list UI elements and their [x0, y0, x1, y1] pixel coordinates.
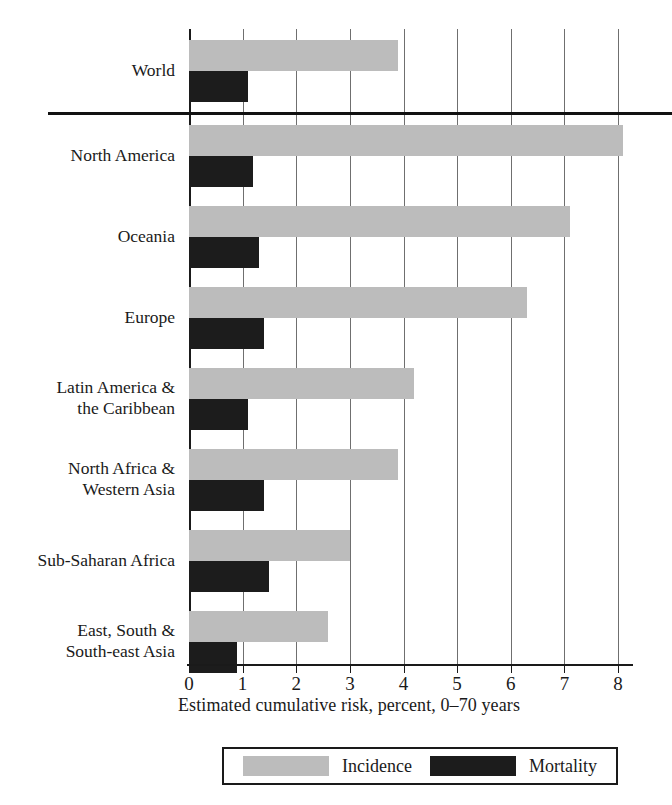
- bar-mortality-north-africa: [189, 480, 264, 511]
- bar-incidence-north-africa: [189, 449, 398, 480]
- bar-incidence-north-america: [189, 125, 623, 156]
- x-axis-title: Estimated cumulative risk, percent, 0–70…: [0, 695, 672, 716]
- x-tick-label-7: 7: [544, 672, 584, 696]
- x-tick-label-1: 1: [223, 672, 263, 696]
- bar-mortality-sub-saharan-africa: [189, 561, 269, 592]
- category-label-europe: Europe: [0, 307, 175, 328]
- bar-incidence-east-south-asia: [189, 611, 328, 642]
- bar-incidence-europe: [189, 287, 527, 318]
- x-axis-line: [187, 664, 633, 666]
- incidence-swatch-icon: [243, 756, 329, 776]
- x-axis-title-text: Estimated cumulative risk, percent, 0–70…: [178, 695, 520, 716]
- x-tick-label-4: 4: [384, 672, 424, 696]
- category-label-latin-america: Latin America & the Caribbean: [0, 377, 175, 419]
- bar-mortality-oceania: [189, 237, 259, 268]
- category-label-east-south-asia: East, South & South-east Asia: [0, 620, 175, 662]
- bar-incidence-oceania: [189, 206, 570, 237]
- x-tick-label-2: 2: [276, 672, 316, 696]
- legend-item-mortality: Mortality: [430, 756, 597, 776]
- bar-mortality-europe: [189, 318, 264, 349]
- x-tick-label-6: 6: [491, 672, 531, 696]
- category-label-sub-saharan-africa: Sub-Saharan Africa: [0, 550, 175, 571]
- x-tick-label-5: 5: [437, 672, 477, 696]
- bar-mortality-latin-america: [189, 399, 248, 430]
- mortality-swatch-icon: [430, 756, 516, 776]
- world-separator-rule: [48, 112, 672, 115]
- legend-label-mortality: Mortality: [529, 756, 597, 776]
- bar-incidence-sub-saharan-africa: [189, 530, 350, 561]
- category-label-oceania: Oceania: [0, 226, 175, 247]
- bar-incidence-world: [189, 40, 398, 71]
- x-tick-label-0: 0: [169, 672, 209, 696]
- bar-mortality-world: [189, 71, 248, 102]
- bar-mortality-east-south-asia: [189, 642, 237, 673]
- category-label-north-america: North America: [0, 145, 175, 166]
- bar-mortality-north-america: [189, 156, 253, 187]
- legend-item-incidence: Incidence: [243, 756, 412, 776]
- x-tick-label-8: 8: [598, 672, 638, 696]
- bar-chart: 0 1 2 3 4 5 6 7 8 World North America Oc…: [0, 0, 672, 805]
- category-label-world: World: [0, 60, 175, 81]
- x-tick-label-3: 3: [330, 672, 370, 696]
- category-label-north-africa: North Africa & Western Asia: [0, 458, 175, 500]
- plot-area: [189, 29, 618, 665]
- legend: Incidence Mortality: [222, 747, 618, 785]
- legend-label-incidence: Incidence: [342, 756, 412, 776]
- bar-incidence-latin-america: [189, 368, 414, 399]
